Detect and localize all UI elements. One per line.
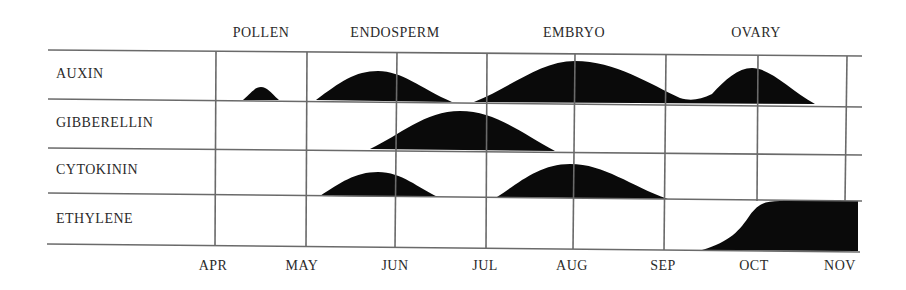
cytokinin-endosperm-peak: [320, 172, 438, 197]
month-label-aug: AUG: [556, 258, 588, 274]
ethylene-rise: [702, 201, 858, 251]
auxin-endosperm-peak: [316, 71, 452, 102]
phase-label-ovary: OVARY: [731, 25, 781, 41]
month-label-oct: OCT: [739, 258, 769, 274]
auxin-embryo-ovary-peaks: [474, 61, 815, 104]
row-label-ethylene: ETHYLENE: [56, 211, 133, 227]
hormone-timeline-chart: POLLEN ENDOSPERM EMBRYO OVARY AUXIN GIBB…: [0, 0, 906, 290]
phase-label-pollen: POLLEN: [233, 25, 290, 41]
month-label-jun: JUN: [381, 258, 408, 274]
month-label-sep: SEP: [650, 258, 676, 274]
row-label-gibberellin: GIBBERELLIN: [56, 115, 153, 131]
row-label-cytokinin: CYTOKININ: [56, 162, 138, 178]
gibberellin-peak: [370, 111, 555, 151]
month-label-jul: JUL: [472, 258, 498, 274]
phase-label-embryo: EMBRYO: [543, 25, 605, 41]
chart-canvas: [0, 0, 906, 290]
cytokinin-embryo-peak: [497, 164, 668, 199]
row-label-auxin: AUXIN: [56, 66, 104, 82]
month-label-nov: NOV: [824, 258, 856, 274]
month-label-apr: APR: [199, 258, 228, 274]
auxin-pollen-peak: [243, 87, 279, 100]
month-label-may: MAY: [286, 258, 319, 274]
phase-label-endosperm: ENDOSPERM: [350, 25, 439, 41]
hormone-curves: [243, 61, 858, 251]
